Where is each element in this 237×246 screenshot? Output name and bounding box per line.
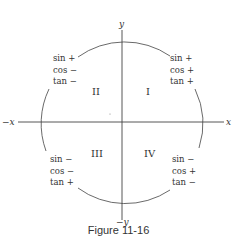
sin-sign: sin +	[53, 53, 75, 63]
x-pos-label: x	[226, 117, 231, 127]
y-pos-label: y	[118, 19, 125, 29]
tan-sign: tan +	[50, 177, 74, 187]
cos-sign: cos +	[172, 166, 196, 176]
sin-sign: sin −	[50, 154, 72, 164]
quadrant-3: III sin − cos − tan +	[50, 148, 103, 187]
cos-sign: cos +	[170, 65, 194, 75]
x-neg-label: −x	[2, 117, 15, 127]
quadrant-numeral: I	[146, 86, 150, 97]
origin-dot	[109, 113, 110, 114]
quadrant-numeral: IV	[144, 148, 156, 159]
quadrant-1: I sin + cos + tan +	[146, 53, 194, 97]
figure-caption: Figure 11-16	[0, 224, 237, 236]
tan-sign: tan +	[170, 76, 194, 86]
arc-bottom	[78, 188, 170, 204]
cos-sign: cos −	[53, 65, 77, 75]
quadrant-4: IV sin − cos + tan −	[144, 148, 196, 187]
arc-left	[41, 89, 49, 151]
tan-sign: tan −	[53, 76, 77, 86]
arc-right	[195, 89, 203, 148]
sin-sign: sin −	[172, 154, 194, 164]
quadrant-numeral: III	[91, 148, 103, 159]
quadrant-diagram: y x −x −y I sin + cos + tan + II sin + c…	[0, 0, 237, 246]
tan-sign: tan −	[172, 177, 196, 187]
quadrant-numeral: II	[92, 86, 100, 97]
quadrant-2: II sin + cos − tan −	[53, 53, 100, 97]
arc-top	[78, 42, 170, 57]
cos-sign: cos −	[50, 166, 74, 176]
sin-sign: sin +	[170, 53, 192, 63]
